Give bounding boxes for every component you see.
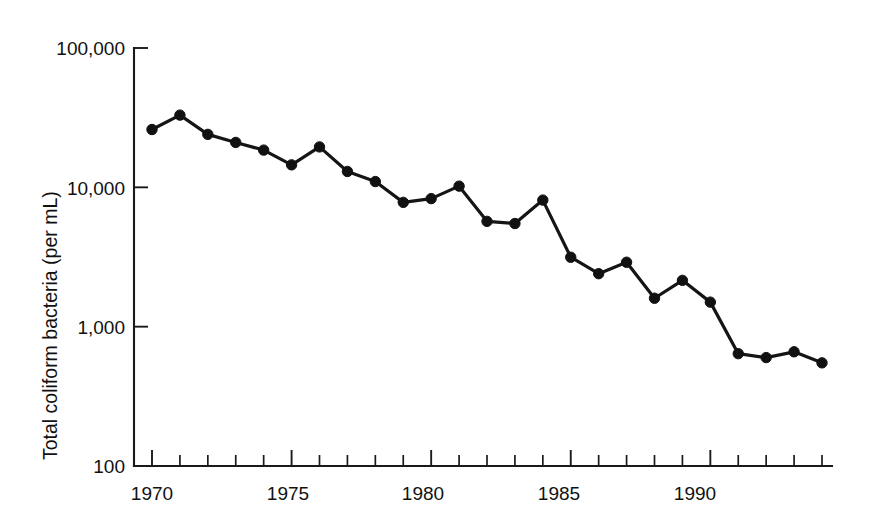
data-point (677, 275, 687, 285)
data-point (705, 297, 715, 307)
data-point (314, 142, 324, 152)
data-point (203, 129, 213, 139)
data-point (147, 124, 157, 134)
x-tick-label-1975: 1975 (267, 483, 309, 504)
data-point (258, 145, 268, 155)
data-point (649, 293, 659, 303)
data-point (342, 166, 352, 176)
y-axis-title: Total coliform bacteria (per mL) (39, 191, 61, 460)
x-tick-label-1980: 1980 (402, 483, 444, 504)
y-tick-label-10000: 10,000 (67, 178, 125, 199)
data-point (454, 181, 464, 191)
y-tick-label-100000: 100,000 (56, 38, 125, 59)
data-point (482, 216, 492, 226)
data-point (733, 348, 743, 358)
data-point (370, 176, 380, 186)
data-point (817, 358, 827, 368)
data-point (761, 352, 771, 362)
y-tick-label-100: 100 (93, 456, 125, 477)
x-axis-ticks (152, 450, 822, 466)
data-point (593, 268, 603, 278)
data-point (426, 193, 436, 203)
data-point (510, 218, 520, 228)
line-chart: Total coliform bacteria (per mL) 100,000… (0, 0, 875, 525)
x-tick-label-1970: 1970 (131, 483, 173, 504)
data-point (175, 110, 185, 120)
data-series-line (152, 115, 822, 363)
y-tick-label-1000: 1,000 (77, 317, 125, 338)
x-tick-label-1985: 1985 (538, 483, 580, 504)
chart-figure: Total coliform bacteria (per mL) 100,000… (0, 0, 875, 525)
data-point (538, 195, 548, 205)
data-point (566, 252, 576, 262)
y-axis-ticks (134, 48, 148, 466)
data-point (621, 257, 631, 267)
data-point (286, 160, 296, 170)
x-tick-label-1990: 1990 (674, 483, 716, 504)
data-point (789, 347, 799, 357)
data-point (231, 137, 241, 147)
data-point (398, 197, 408, 207)
